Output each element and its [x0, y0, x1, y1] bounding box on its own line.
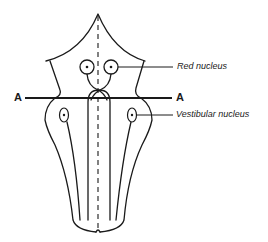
left-vestibulospinal-tract: [67, 122, 80, 220]
brainstem-diagram: [0, 0, 268, 242]
red-nucleus-right-arc: [91, 74, 111, 100]
central-column: [88, 90, 110, 220]
red-nucleus-right: [104, 60, 118, 74]
section-label-right: A: [176, 91, 184, 103]
bottom-notch: [96, 230, 100, 232]
vestibular-nucleus-label: Vestibular nucleus: [176, 109, 249, 119]
vestibular-nucleus-right: [128, 108, 137, 122]
section-label-left: A: [14, 91, 22, 103]
red-nucleus-left-arc: [87, 74, 107, 100]
top-outline: [46, 14, 145, 61]
right-vestibulospinal-tract: [116, 122, 131, 220]
red-nucleus-label: Red nucleus: [177, 61, 227, 71]
vestibular-nucleus-left: [60, 108, 69, 122]
red-nucleus-left: [80, 60, 94, 74]
